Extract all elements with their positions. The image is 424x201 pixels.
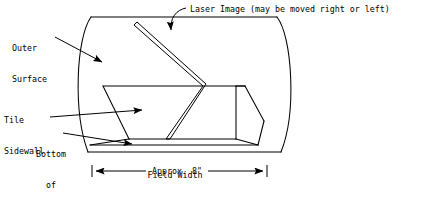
label-outer-surface-line2: Surface	[12, 74, 47, 84]
cavity-right-oblique-upper	[245, 86, 264, 121]
label-outer-surface: Outer Surface	[12, 22, 47, 105]
label-bottom-of-cavity-line1: Bottom	[26, 149, 76, 159]
label-bottom-of-cavity-line2: of	[26, 180, 76, 190]
laser-stripe-lower-outer	[166, 86, 203, 139]
laser-stripe-upper-inner	[137, 22, 206, 84]
diagram-page: Laser Image (may be moved right or left)…	[0, 0, 424, 201]
laser-image-leader-curve	[171, 8, 186, 30]
cavity-right-oblique-lower	[236, 139, 258, 145]
label-laser-image: Laser Image (may be moved right or left)	[190, 4, 390, 14]
outer-surface-body	[78, 17, 291, 152]
outer-surface-leader-line	[55, 37, 102, 62]
label-bottom-of-cavity: Bottom of Cavity	[26, 128, 76, 201]
tile-cavity	[90, 86, 264, 145]
outer-left-arc	[78, 17, 91, 152]
label-tile-sidewall-line1: Tile	[4, 115, 44, 125]
laser-stripe	[134, 22, 206, 139]
label-outer-surface-line1: Outer	[12, 43, 47, 53]
laser-stripe-top-cap	[134, 22, 137, 25]
laser-stripe-lower-inner	[170, 84, 206, 139]
laser-stripe-upper-outer	[134, 25, 203, 86]
cavity-front-lip	[90, 139, 129, 145]
tile-sidewall-leader	[50, 110, 142, 117]
cavity-right-rim-connector	[258, 121, 264, 145]
laser-image-leader	[171, 8, 186, 30]
tile-sidewall-leader-line	[50, 110, 142, 117]
outer-surface-leader	[55, 37, 102, 62]
outer-right-arc	[277, 17, 291, 152]
label-field-width: Field Width	[110, 170, 240, 180]
